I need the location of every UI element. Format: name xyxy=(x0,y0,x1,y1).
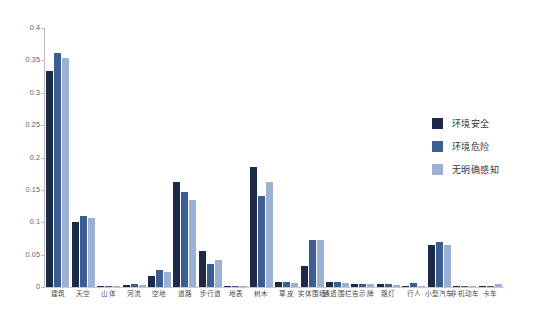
bar xyxy=(367,284,374,287)
bar-set xyxy=(46,28,69,287)
bar-set xyxy=(377,28,400,287)
bar xyxy=(258,196,265,287)
bar-set xyxy=(224,28,247,287)
bar xyxy=(351,284,358,287)
bar-chart: 00.050.10.150.20.250.30.350.4 建筑天空山体河流空地… xyxy=(0,0,549,309)
bar xyxy=(342,283,349,287)
bar-set xyxy=(351,28,374,287)
bar-set xyxy=(97,28,120,287)
bar xyxy=(487,286,494,287)
bar-group: 河流 xyxy=(121,28,146,287)
bar xyxy=(309,240,316,287)
bar-group: 空地 xyxy=(147,28,172,287)
bar xyxy=(164,272,171,287)
bar-group: 通透围栏 xyxy=(325,28,350,287)
bar-set xyxy=(326,28,349,287)
bar xyxy=(402,286,409,287)
bar xyxy=(495,284,502,287)
x-axis-tick-label: 卡车 xyxy=(483,290,497,298)
bar xyxy=(123,285,130,287)
bar-group: 路灯 xyxy=(376,28,401,287)
x-axis-tick-label: 空地 xyxy=(152,290,166,298)
bar xyxy=(139,285,146,287)
y-axis-tick-label: 0.3 xyxy=(10,89,40,96)
legend-item[interactable]: 无明确感知 xyxy=(432,163,542,175)
bar xyxy=(62,58,69,287)
bar-group: 行人 xyxy=(401,28,426,287)
bar xyxy=(240,286,247,287)
bar-group: 建筑 xyxy=(45,28,70,287)
x-axis-tick-label: 山体 xyxy=(101,290,115,298)
bar xyxy=(189,200,196,287)
bar xyxy=(453,286,460,287)
bar xyxy=(410,283,417,287)
bar xyxy=(113,286,120,287)
bar xyxy=(46,71,53,287)
bar-set xyxy=(148,28,171,287)
bar xyxy=(215,260,222,287)
y-axis-tick-label: 0.1 xyxy=(10,218,40,225)
y-axis-tick-label: 0 xyxy=(10,283,40,290)
bar-set xyxy=(173,28,196,287)
y-axis-tick-label: 0.25 xyxy=(10,121,40,128)
x-axis-tick-label: 草皮 xyxy=(279,290,293,298)
bar xyxy=(148,276,155,287)
bar-set xyxy=(199,28,222,287)
legend-swatch xyxy=(432,118,443,129)
bar xyxy=(97,286,104,287)
bar xyxy=(385,284,392,287)
bar xyxy=(469,286,476,287)
bar xyxy=(224,286,231,287)
x-axis-tick-label: 建筑 xyxy=(51,290,65,298)
bar xyxy=(250,167,257,287)
x-axis-tick-label: 地表 xyxy=(229,290,243,298)
bar xyxy=(275,282,282,287)
bar xyxy=(199,251,206,287)
bar xyxy=(479,286,486,287)
bar-group: 步行道 xyxy=(198,28,223,287)
bar xyxy=(105,286,112,287)
bar xyxy=(326,282,333,287)
x-axis-tick-label: 通透围栏 xyxy=(323,290,352,298)
chart-legend: 环境安全环境危险无明确感知 xyxy=(432,117,542,186)
bar-set xyxy=(250,28,273,287)
legend-item[interactable]: 环境危险 xyxy=(432,140,542,152)
bar xyxy=(72,222,79,287)
bar-set xyxy=(123,28,146,287)
bar xyxy=(436,242,443,287)
bar-group: 实体围墙 xyxy=(299,28,324,287)
x-axis-tick-label: 河流 xyxy=(127,290,141,298)
legend-label: 环境安全 xyxy=(452,117,490,130)
bar xyxy=(131,284,138,287)
legend-swatch xyxy=(432,164,443,175)
bar-group: 草皮 xyxy=(274,28,299,287)
y-axis-tick-label: 0.35 xyxy=(10,56,40,63)
bar-group: 树木 xyxy=(249,28,274,287)
x-axis-tick-label: 天空 xyxy=(76,290,90,298)
y-axis-tick-labels: 00.050.10.150.20.250.30.350.4 xyxy=(0,0,40,309)
bar xyxy=(359,284,366,287)
y-axis-tick-label: 0.4 xyxy=(10,24,40,31)
y-axis-tick-label: 0.05 xyxy=(10,251,40,258)
legend-label: 环境危险 xyxy=(452,140,490,153)
bar xyxy=(283,282,290,287)
bar xyxy=(317,240,324,287)
x-axis-tick-label: 道路 xyxy=(178,290,192,298)
legend-item[interactable]: 环境安全 xyxy=(432,117,542,129)
legend-label: 无明确感知 xyxy=(452,163,499,176)
x-axis-tick-label: 告示牌 xyxy=(352,290,374,298)
bar xyxy=(444,245,451,287)
bar-group: 地表 xyxy=(223,28,248,287)
bar xyxy=(181,192,188,287)
bar xyxy=(173,182,180,287)
bar xyxy=(461,286,468,287)
x-axis-tick-label: 路灯 xyxy=(381,290,395,298)
bar-set xyxy=(72,28,95,287)
y-axis-tick-label: 0.15 xyxy=(10,186,40,193)
bar xyxy=(301,266,308,287)
bar xyxy=(54,53,61,287)
bar xyxy=(266,182,273,287)
bar xyxy=(88,218,95,287)
bar xyxy=(428,245,435,287)
bar xyxy=(291,283,298,287)
